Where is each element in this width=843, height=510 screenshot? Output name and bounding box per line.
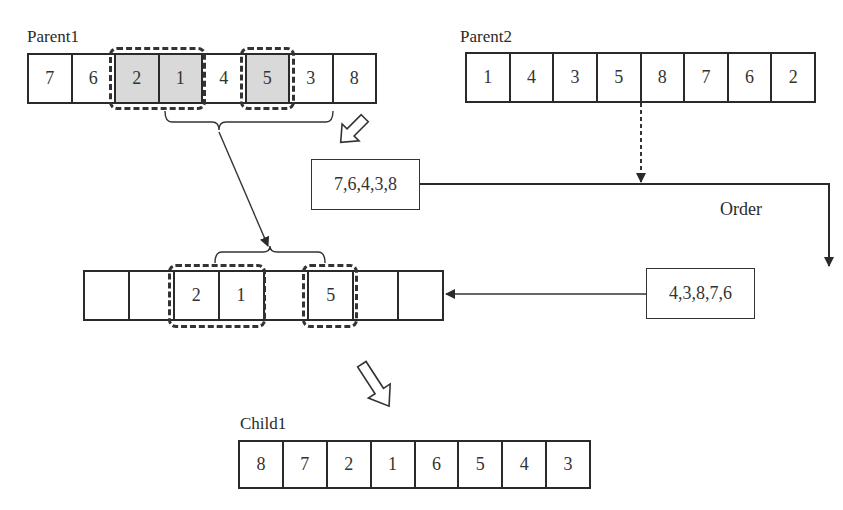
parent1-gene-selected: 2 xyxy=(116,55,160,102)
hollow-arrow-icon xyxy=(332,110,373,151)
parent2-label: Parent2 xyxy=(460,28,512,45)
ordered-genes-box: 4,3,8,7,6 xyxy=(646,268,755,319)
parent1-gene: 7 xyxy=(29,55,73,102)
parent1-gene-selected: 1 xyxy=(160,55,204,102)
parent2-gene: 1 xyxy=(467,54,511,101)
parent1-array: 7 6 2 1 4 5 3 8 xyxy=(27,53,377,104)
order-path xyxy=(420,184,829,266)
offspring-inherited-gene: 5 xyxy=(309,272,354,319)
child1-gene: 6 xyxy=(416,442,460,487)
parent2-gene: 2 xyxy=(772,54,814,101)
offspring-empty-slot xyxy=(85,272,130,319)
child1-gene: 4 xyxy=(503,442,547,487)
parent2-array: 1 4 3 5 8 7 6 2 xyxy=(465,52,816,103)
parent2-gene: 3 xyxy=(554,54,598,101)
parent2-gene: 5 xyxy=(598,54,642,101)
child1-gene: 7 xyxy=(284,442,328,487)
child1-array: 8 7 2 1 6 5 4 3 xyxy=(238,440,591,489)
parent2-gene: 6 xyxy=(729,54,773,101)
parent2-gene: 4 xyxy=(511,54,555,101)
intermediate-offspring-array: 2 1 5 xyxy=(83,270,444,321)
child1-gene: 8 xyxy=(240,442,284,487)
parent1-gene: 6 xyxy=(73,55,117,102)
hollow-arrow-icon xyxy=(351,357,400,413)
offspring-empty-slot xyxy=(354,272,399,319)
parent1-label: Parent1 xyxy=(27,28,79,45)
parent1-brace xyxy=(165,111,333,130)
child1-gene: 1 xyxy=(372,442,416,487)
offspring-inherited-gene: 1 xyxy=(220,272,265,319)
child1-gene: 5 xyxy=(459,442,503,487)
transfer-arrow xyxy=(219,132,268,246)
parent1-gene-selected: 5 xyxy=(247,55,291,102)
parent1-gene: 3 xyxy=(290,55,334,102)
child1-gene: 2 xyxy=(328,442,372,487)
offspring-brace xyxy=(215,246,325,263)
child1-label: Child1 xyxy=(240,415,286,432)
parent2-gene: 8 xyxy=(642,54,686,101)
parent1-gene: 4 xyxy=(203,55,247,102)
offspring-empty-slot xyxy=(399,272,442,319)
parent1-gene: 8 xyxy=(334,55,376,102)
order-label: Order xyxy=(720,200,762,218)
child1-gene: 3 xyxy=(547,442,589,487)
offspring-empty-slot xyxy=(265,272,310,319)
offspring-empty-slot xyxy=(130,272,175,319)
offspring-inherited-gene: 2 xyxy=(175,272,220,319)
parent2-gene: 7 xyxy=(685,54,729,101)
remaining-genes-box: 7,6,4,3,8 xyxy=(311,159,420,210)
